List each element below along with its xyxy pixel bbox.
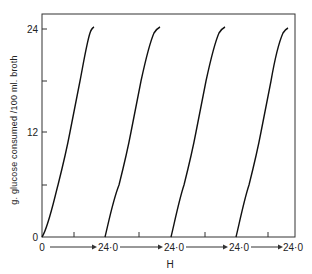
y-tick-label-0: 0: [32, 232, 38, 243]
x-axis-segments: 0 24·0 24·0 24·0 24·0: [39, 242, 303, 253]
arrow-head-icon: [92, 245, 97, 250]
x-label-end-1: 24·0: [98, 242, 118, 253]
y-axis-ticks: [42, 29, 47, 185]
curve-cycle-3: [171, 27, 225, 237]
series-curves: [42, 27, 288, 237]
glucose-consumption-chart: 24 12 0 g. glucose consumed /100 ml. bro…: [0, 0, 312, 274]
x-axis-label: H: [166, 259, 173, 270]
x-label-end-3: 24·0: [229, 242, 249, 253]
y-tick-label-24: 24: [27, 24, 39, 35]
y-axis-label: g. glucose consumed /100 ml. broth: [9, 55, 19, 204]
arrow-head-icon: [223, 245, 228, 250]
arrow-head-icon: [158, 245, 163, 250]
plot-frame: [42, 14, 295, 237]
y-tick-label-12: 12: [27, 127, 39, 138]
curve-cycle-1: [42, 27, 94, 237]
x-label-end-4: 24·0: [283, 242, 303, 253]
curve-cycle-2: [105, 27, 160, 237]
x-label-start: 0: [39, 242, 45, 253]
x-label-end-2: 24·0: [164, 242, 184, 253]
curve-cycle-4: [236, 28, 288, 237]
